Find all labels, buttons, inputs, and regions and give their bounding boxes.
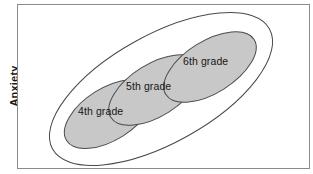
figure-canvas: Anxiety 4th grade 5th grade 6th grade — [0, 0, 313, 174]
ellipse-label-grade-5: 5th grade — [126, 80, 171, 92]
ellipse-label-grade-4: 4th grade — [78, 105, 123, 117]
ellipse-label-grade-6: 6th grade — [183, 55, 228, 67]
